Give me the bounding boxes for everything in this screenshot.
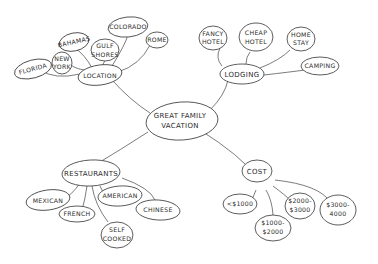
node-rome[interactable]: ROME — [146, 32, 168, 48]
center-node[interactable]: GREAT FAMILY VACATION — [145, 100, 219, 143]
node-1000-2000[interactable]: $1000- $2000 — [255, 215, 291, 241]
svg-text:COLORADO: COLORADO — [109, 23, 147, 30]
node-2000-3000[interactable]: $2000- $3000 — [285, 193, 315, 219]
node-camping[interactable]: CAMPING — [301, 57, 339, 75]
svg-text:COOKED: COOKED — [103, 235, 132, 242]
svg-text:$3000-: $3000- — [326, 201, 350, 208]
svg-text:FANCY: FANCY — [202, 30, 223, 37]
svg-text:$2000-: $2000- — [288, 197, 312, 204]
node-bahamas[interactable]: BAHAMAS — [57, 30, 91, 54]
node-gulf-shores[interactable]: GULF SHORES — [91, 39, 119, 61]
svg-text:SHORES: SHORES — [91, 51, 118, 58]
svg-text:FRENCH: FRENCH — [63, 210, 90, 217]
node-self-cooked[interactable]: SELF COOKED — [101, 222, 133, 248]
edge-center-lodging — [210, 80, 228, 110]
svg-text:HOME: HOME — [291, 31, 311, 38]
node-home-stay[interactable]: HOME STAY — [287, 27, 315, 51]
node-american[interactable]: AMERICAN — [97, 184, 142, 207]
edge-lodging-fancy — [218, 48, 222, 66]
svg-text:$2000: $2000 — [262, 228, 283, 235]
node-florida[interactable]: FLORIDA — [12, 55, 53, 82]
svg-text:<$1000: <$1000 — [227, 200, 254, 207]
node-colorado[interactable]: COLORADO — [107, 15, 149, 39]
node-cost[interactable]: COST — [242, 160, 272, 182]
svg-text:$3000: $3000 — [289, 206, 310, 213]
node-3000-4000[interactable]: $3000- 4000 — [320, 195, 356, 225]
svg-text:YORK: YORK — [52, 63, 72, 70]
svg-text:4000: 4000 — [330, 210, 347, 217]
edge-location-rome — [118, 45, 150, 72]
svg-text:STAY: STAY — [293, 39, 309, 46]
edge-lodging-camping — [264, 70, 305, 75]
svg-text:NEW: NEW — [54, 55, 70, 62]
edge-location-bahamas — [75, 48, 92, 68]
svg-text:COST: COST — [247, 168, 268, 176]
svg-text:LOCATION: LOCATION — [83, 72, 117, 79]
center-label-line1: GREAT FAMILY — [154, 112, 207, 120]
svg-text:CAMPING: CAMPING — [305, 62, 336, 69]
edge-center-restaurants — [95, 132, 148, 165]
node-under-1000[interactable]: <$1000 — [223, 194, 257, 214]
edge-lodging-cheap — [246, 52, 250, 64]
svg-text:ROME: ROME — [147, 36, 167, 43]
svg-text:CHINESE: CHINESE — [143, 206, 172, 213]
svg-text:SELF: SELF — [109, 226, 125, 233]
svg-text:$1000-: $1000- — [261, 219, 285, 226]
node-new-york[interactable]: NEW YORK — [52, 52, 72, 74]
svg-text:HOTEL: HOTEL — [245, 38, 267, 45]
center-label-line2: VACATION — [161, 122, 199, 130]
node-restaurants[interactable]: RESTAURANTS — [61, 159, 120, 188]
node-lodging[interactable]: LODGING — [220, 64, 264, 84]
svg-text:LODGING: LODGING — [225, 71, 260, 79]
svg-text:AMERICAN: AMERICAN — [102, 192, 137, 199]
edge-lodging-homestay — [260, 50, 290, 68]
node-fancy-hotel[interactable]: FANCY HOTEL — [199, 26, 227, 50]
svg-text:MEXICAN: MEXICAN — [33, 197, 64, 204]
svg-text:CHEAP: CHEAP — [245, 29, 267, 36]
node-chinese[interactable]: CHINESE — [135, 198, 180, 221]
svg-text:RESTAURANTS: RESTAURANTS — [64, 170, 118, 178]
node-cheap-hotel[interactable]: CHEAP HOTEL — [239, 23, 273, 51]
svg-text:GULF: GULF — [96, 42, 114, 49]
mind-map-canvas: GREAT FAMILY VACATION LOCATION FLORIDA N… — [0, 0, 378, 264]
node-french[interactable]: FRENCH — [59, 206, 95, 222]
edge-cost-1000 — [266, 190, 273, 215]
svg-text:HOTEL: HOTEL — [202, 38, 224, 45]
edge-center-location — [112, 80, 150, 113]
